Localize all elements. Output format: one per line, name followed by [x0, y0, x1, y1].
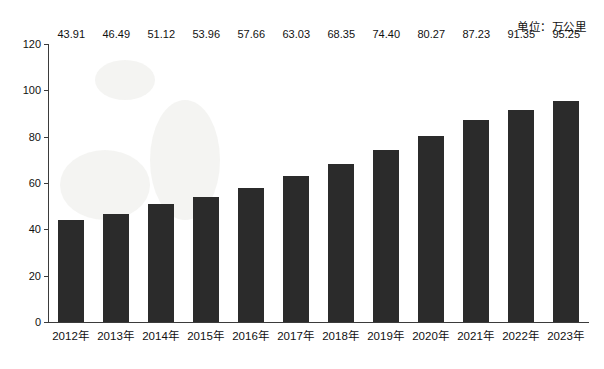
x-axis-tick-label: 2013年 — [93, 327, 138, 343]
bar-column: 95.25 — [553, 44, 579, 322]
x-axis-tick-label: 2022年 — [498, 327, 543, 343]
bar: 87.23 — [463, 120, 489, 322]
x-axis-tick-label: 2018年 — [318, 327, 363, 343]
x-axis-tick-label: 2012年 — [48, 327, 93, 343]
x-axis-tick-label: 2017年 — [273, 327, 318, 343]
bar-value-label: 63.03 — [283, 28, 311, 40]
y-axis-tick-mark — [44, 137, 48, 138]
bar: 68.35 — [328, 164, 354, 322]
y-axis-tick-mark — [44, 229, 48, 230]
bar-value-label: 51.12 — [148, 28, 176, 40]
x-axis-line — [48, 322, 589, 323]
bar-column: 53.96 — [193, 44, 219, 322]
bar: 43.91 — [58, 220, 84, 322]
bar-value-label: 53.96 — [193, 28, 221, 40]
y-axis-tick-mark — [44, 322, 48, 323]
bar-value-label: 46.49 — [103, 28, 131, 40]
bar: 57.66 — [238, 188, 264, 322]
bar-column: 43.91 — [58, 44, 84, 322]
bar: 95.25 — [553, 101, 579, 322]
x-axis-tick-label: 2016年 — [228, 327, 273, 343]
y-axis-tick-mark — [44, 276, 48, 277]
bar-value-label: 74.40 — [373, 28, 401, 40]
bar: 51.12 — [148, 204, 174, 322]
x-axis-tick-label: 2015年 — [183, 327, 228, 343]
bar: 74.40 — [373, 150, 399, 322]
bar-column: 87.23 — [463, 44, 489, 322]
x-axis-tick-label: 2023年 — [543, 327, 588, 343]
bar-column: 68.35 — [328, 44, 354, 322]
x-axis-tick-label: 2020年 — [408, 327, 453, 343]
y-axis-tick-mark — [44, 90, 48, 91]
bar-column: 80.27 — [418, 44, 444, 322]
bar-value-label: 43.91 — [58, 28, 86, 40]
bar: 80.27 — [418, 136, 444, 322]
bar-column: 74.40 — [373, 44, 399, 322]
bar-column: 57.66 — [238, 44, 264, 322]
bar-column: 63.03 — [283, 44, 309, 322]
bar-value-label: 57.66 — [238, 28, 266, 40]
bar-value-label: 91.35 — [508, 28, 536, 40]
bar-column: 51.12 — [148, 44, 174, 322]
bar: 63.03 — [283, 176, 309, 322]
y-axis-tick-mark — [44, 44, 48, 45]
bar-value-label: 68.35 — [328, 28, 356, 40]
bar-value-label: 95.25 — [553, 28, 581, 40]
bar: 91.35 — [508, 110, 534, 322]
bar: 53.96 — [193, 197, 219, 322]
plot-area: 02040608010012043.9146.4951.1253.9657.66… — [48, 44, 588, 322]
bar: 46.49 — [103, 214, 129, 322]
x-axis-tick-label: 2021年 — [453, 327, 498, 343]
y-axis-tick-mark — [44, 183, 48, 184]
bar-column: 91.35 — [508, 44, 534, 322]
x-axis-tick-label: 2019年 — [363, 327, 408, 343]
bar-chart: 单位：万公里 02040608010012043.9146.4951.1253.… — [0, 0, 604, 369]
bar-column: 46.49 — [103, 44, 129, 322]
x-axis-tick-label: 2014年 — [138, 327, 183, 343]
bar-value-label: 80.27 — [418, 28, 446, 40]
bar-value-label: 87.23 — [463, 28, 491, 40]
